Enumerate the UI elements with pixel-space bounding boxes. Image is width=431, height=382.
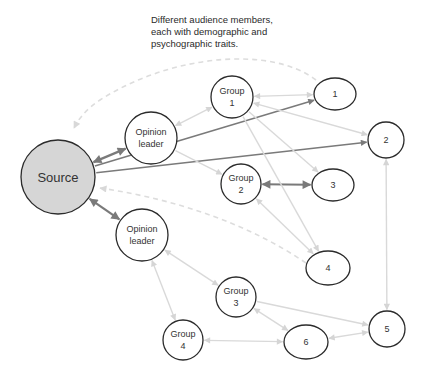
node-label: 4	[180, 341, 185, 351]
edge-n2-to-n5	[386, 159, 387, 309]
node-shape	[221, 164, 261, 204]
nodes-layer: SourceOpinionleaderOpinionleaderGroup1Gr…	[21, 76, 405, 360]
node-label: 2	[383, 135, 388, 145]
node-shape	[163, 320, 203, 360]
node-shape	[116, 209, 168, 261]
node-label: 5	[384, 324, 389, 334]
node-n5: 5	[369, 311, 405, 347]
edge-ol2-to-g4	[152, 261, 175, 320]
node-label: Opinion	[135, 127, 166, 137]
edge-g2-to-n3	[262, 184, 310, 185]
edge-g1-to-n3	[249, 112, 318, 172]
node-n1: 1	[314, 78, 356, 110]
node-label: 3	[330, 180, 335, 190]
node-g2: Group2	[221, 164, 261, 204]
node-label: 1	[229, 98, 234, 108]
node-label: Group	[223, 286, 248, 296]
node-shape	[125, 112, 177, 164]
node-label: 1	[332, 89, 337, 99]
edge-g1-to-n1	[254, 95, 312, 97]
node-label: 4	[325, 263, 330, 273]
node-g3: Group3	[216, 277, 256, 317]
node-g1: Group1	[211, 76, 253, 118]
communication-network-diagram: SourceOpinionleaderOpinionleaderGroup1Gr…	[0, 0, 431, 382]
node-g4: Group4	[163, 320, 203, 360]
edge-ol1-to-g1	[176, 107, 212, 125]
node-n3: 3	[312, 169, 354, 201]
node-ol1: Opinionleader	[125, 112, 177, 164]
edge-source-to-ol2	[90, 199, 120, 219]
edge-g4-to-n6	[204, 340, 282, 341]
node-label: leader	[138, 139, 163, 149]
node-label: Group	[219, 86, 244, 96]
node-n6: 6	[284, 325, 328, 359]
node-shape	[211, 76, 253, 118]
node-n4: 4	[306, 251, 350, 285]
node-n2: 2	[368, 122, 404, 158]
edge-g3-to-n6	[254, 309, 288, 331]
node-label: Group	[170, 329, 195, 339]
edge-n6-to-n5	[329, 332, 368, 338]
node-label: 6	[303, 337, 308, 347]
node-label: Source	[37, 170, 78, 185]
edge-n1-to-source	[74, 59, 316, 128]
node-label: 2	[238, 185, 243, 195]
node-shape	[216, 277, 256, 317]
node-label: leader	[129, 236, 154, 246]
edge-source-to-ol1	[94, 149, 126, 162]
node-label: Group	[228, 173, 253, 183]
node-label: 3	[233, 298, 238, 308]
node-source: Source	[21, 140, 95, 214]
edge-ol2-to-g3	[165, 250, 218, 285]
node-label: Opinion	[126, 224, 157, 234]
node-ol2: Opinionleader	[116, 209, 168, 261]
